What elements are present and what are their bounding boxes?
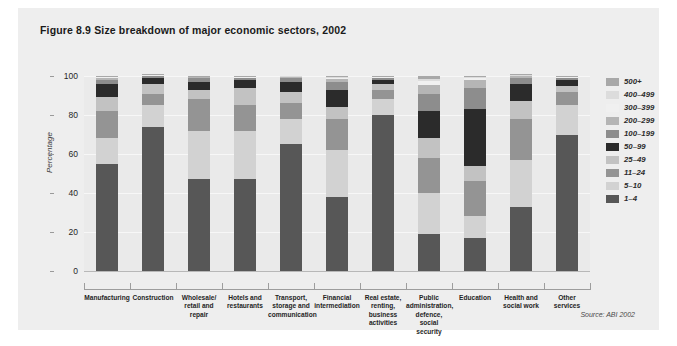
bar-segment bbox=[418, 158, 440, 193]
x-category-line: Construction bbox=[130, 294, 176, 302]
page-title: Figure 8.9 Size breakdown of major econo… bbox=[40, 24, 346, 36]
legend-item[interactable]: 50–99 bbox=[606, 140, 677, 153]
legend-label: 50–99 bbox=[624, 142, 646, 151]
legend-swatch bbox=[606, 143, 619, 151]
bar-segment bbox=[96, 78, 118, 80]
x-category-line: restaurants bbox=[222, 302, 268, 310]
bar-segment bbox=[556, 78, 578, 80]
x-category-label: Wholesale/retail andrepair bbox=[176, 294, 222, 319]
bar-segment bbox=[96, 111, 118, 138]
bar-segment bbox=[188, 179, 210, 271]
bar-segment bbox=[418, 94, 440, 112]
bar-segment bbox=[372, 115, 394, 271]
x-tick-mark bbox=[222, 283, 223, 290]
y-tick-label: 0 bbox=[52, 266, 78, 276]
bar-segment bbox=[464, 80, 486, 88]
x-category-line: Manufacturing bbox=[84, 294, 130, 302]
bar-column bbox=[418, 76, 440, 271]
bar-segment bbox=[326, 197, 348, 271]
bar-segment bbox=[326, 76, 348, 77]
y-axis-ticks: 020406080100 bbox=[48, 76, 78, 271]
bar-segment bbox=[372, 99, 394, 115]
legend-label: 100–199 bbox=[624, 129, 654, 138]
bar-segment bbox=[510, 101, 532, 119]
bar-column bbox=[234, 76, 256, 271]
legend-item[interactable]: 200–299 bbox=[606, 114, 677, 127]
y-tick-label: 60 bbox=[52, 149, 78, 159]
x-tick-mark bbox=[130, 283, 131, 290]
source-note: Source: ABI 2002 bbox=[580, 311, 635, 318]
y-tick-mark bbox=[50, 76, 54, 77]
x-category-label: Otherservices bbox=[544, 294, 590, 311]
y-tick-mark bbox=[50, 193, 54, 194]
x-category-label: Transport,storage andcommunication bbox=[268, 294, 314, 319]
bar-segment bbox=[234, 179, 256, 271]
bar-segment bbox=[556, 135, 578, 272]
legend-item[interactable]: 300–399 bbox=[606, 101, 677, 114]
bar-segment bbox=[234, 80, 256, 88]
legend-item[interactable]: 500+ bbox=[606, 75, 677, 88]
bar-segment bbox=[96, 77, 118, 78]
bar-segment bbox=[96, 97, 118, 111]
legend-label: 5–10 bbox=[624, 181, 641, 190]
bar-segment bbox=[464, 76, 486, 77]
legend-item[interactable]: 400–499 bbox=[606, 88, 677, 101]
x-category-line: Education bbox=[452, 294, 498, 302]
x-axis-line bbox=[84, 289, 590, 290]
y-tick-label: 80 bbox=[52, 110, 78, 120]
bar-segment bbox=[510, 160, 532, 207]
x-category-line: activities bbox=[360, 319, 406, 327]
x-category-line: renting, bbox=[360, 302, 406, 310]
y-tick-label: 40 bbox=[52, 188, 78, 198]
bar-segment bbox=[326, 119, 348, 150]
bar-segment bbox=[280, 82, 302, 92]
x-tick-mark bbox=[268, 283, 269, 290]
bar-segment bbox=[418, 76, 440, 79]
x-category-line: Health and bbox=[498, 294, 544, 302]
bar-segment bbox=[280, 119, 302, 144]
x-category-line: Other bbox=[544, 294, 590, 302]
bar-segment bbox=[372, 78, 394, 80]
bar-segment bbox=[418, 234, 440, 271]
plot-area bbox=[84, 76, 590, 271]
bar-segment bbox=[280, 103, 302, 119]
bar-segment bbox=[280, 92, 302, 104]
bar-segment bbox=[142, 127, 164, 271]
bar-segment bbox=[464, 78, 486, 80]
bar-column bbox=[510, 76, 532, 271]
bar-segment bbox=[510, 74, 532, 75]
x-tick-mark bbox=[590, 283, 591, 290]
bar-segment bbox=[188, 131, 210, 180]
bar-segment bbox=[142, 84, 164, 94]
legend-item[interactable]: 5–10 bbox=[606, 179, 677, 192]
bar-segment bbox=[142, 94, 164, 106]
bar-segment bbox=[464, 88, 486, 109]
bar-segment bbox=[556, 77, 578, 78]
legend-swatch bbox=[606, 91, 619, 99]
legend-item[interactable]: 1–4 bbox=[606, 192, 677, 205]
bar-segment bbox=[280, 77, 302, 78]
x-category-label: Hotels andrestaurants bbox=[222, 294, 268, 311]
bar-column bbox=[556, 76, 578, 271]
bar-segment bbox=[464, 109, 486, 166]
legend-item[interactable]: 100–199 bbox=[606, 127, 677, 140]
bar-segment bbox=[510, 119, 532, 160]
x-category-label: Manufacturing bbox=[84, 294, 130, 302]
legend-item[interactable]: 25–49 bbox=[606, 153, 677, 166]
x-category-line: social work bbox=[498, 302, 544, 310]
x-category-label: Financialintermediation bbox=[314, 294, 360, 311]
x-category-line: repair bbox=[176, 311, 222, 319]
legend-item[interactable]: 11–24 bbox=[606, 166, 677, 179]
x-tick-mark bbox=[406, 283, 407, 290]
bar-segment bbox=[142, 78, 164, 84]
bar-column bbox=[326, 76, 348, 271]
x-category-line: Wholesale/ bbox=[176, 294, 222, 302]
bar-segment bbox=[464, 181, 486, 216]
x-category-line: communication bbox=[268, 311, 314, 319]
legend-label: 25–49 bbox=[624, 155, 646, 164]
bar-segment bbox=[96, 84, 118, 98]
bar-segment bbox=[372, 80, 394, 84]
legend-swatch bbox=[606, 195, 619, 203]
bar-segment bbox=[234, 77, 256, 78]
bar-segment bbox=[464, 238, 486, 271]
